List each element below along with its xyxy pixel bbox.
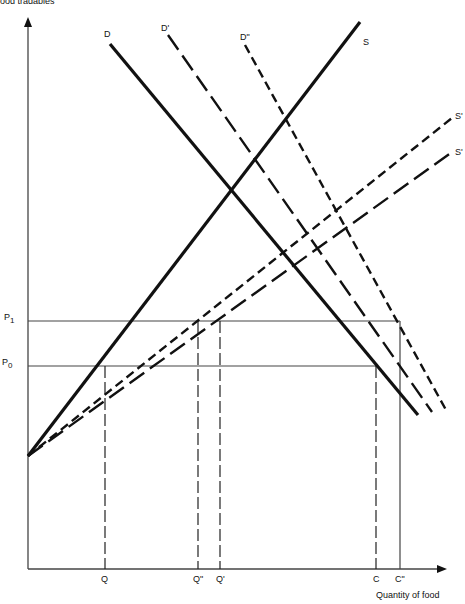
supply-demand-diagram [0, 0, 465, 604]
x-axis-label: Quantity of food [376, 591, 440, 600]
demand-curve-d [110, 44, 418, 415]
x-axis-arrow-icon [437, 565, 447, 573]
supply-curve-s-prime-upper [28, 118, 452, 456]
curve-label-s-prime-lower: S' [455, 148, 463, 157]
supply-curve-s [28, 22, 360, 456]
curve-label-s: S [363, 38, 369, 47]
y-axis-label: ood tradables [0, 0, 55, 6]
quantity-label-q-double-prime: Q" [193, 575, 203, 584]
quantity-label-c-double-prime: C" [395, 575, 405, 584]
curve-label-d-double-prime: D" [240, 33, 250, 42]
curve-label-d-prime: D' [161, 24, 169, 33]
curve-label-d: D [104, 30, 111, 39]
y-axis-arrow-icon [24, 17, 32, 27]
quantity-label-q-prime: Q' [216, 575, 225, 584]
price-label-p0: P0 [2, 358, 12, 370]
quantity-label-q: Q [101, 575, 108, 584]
price-label-p1: P1 [4, 313, 14, 325]
quantity-label-c: C [373, 575, 380, 584]
curve-label-s-prime-upper: S' [455, 112, 463, 121]
